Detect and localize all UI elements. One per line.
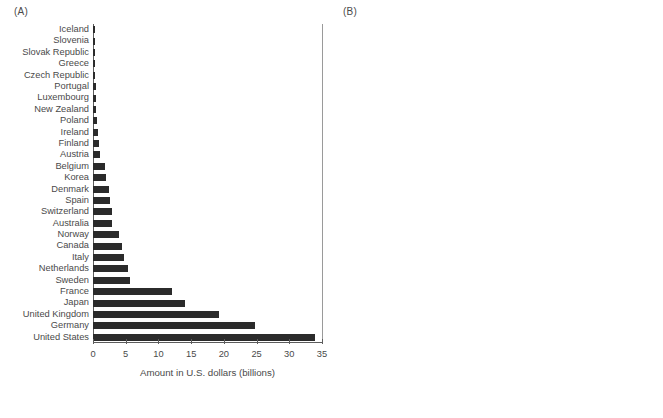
panel-a-tag: (A) [14, 6, 28, 17]
bar-row: United Kingdom [93, 309, 322, 320]
bar-category-label: Korea [64, 173, 89, 182]
bar [93, 197, 110, 204]
x-ticklabel: 15 [186, 349, 196, 359]
x-ticklabel: 20 [219, 349, 229, 359]
panel-b: (B) Slovak RepublicGreecePolandCzech Rep… [331, 0, 663, 418]
bar-row: Netherlands [93, 263, 322, 274]
x-tick [158, 339, 159, 344]
bar-category-label: France [60, 287, 89, 296]
bar [93, 26, 95, 33]
x-ticklabel: 35 [317, 349, 327, 359]
bar-category-label: Czech Republic [24, 71, 89, 80]
bar-row: Czech Republic [93, 70, 322, 81]
bar-row: Norway [93, 229, 322, 240]
bar-category-label: Belgium [55, 162, 89, 171]
bar-category-label: Portugal [54, 82, 89, 91]
bar-row: Denmark [93, 183, 322, 194]
bar [93, 208, 112, 215]
bar-category-label: Italy [72, 253, 89, 262]
panel-a-plot-area: IcelandSloveniaSlovak RepublicGreeceCzec… [93, 24, 322, 343]
bar-row: Spain [93, 195, 322, 206]
x-tick [322, 339, 323, 344]
bar-row: Portugal [93, 81, 322, 92]
bar-category-label: Slovenia [53, 36, 89, 45]
panel-a-x-ticks [93, 339, 322, 344]
bar-row: Belgium [93, 161, 322, 172]
bar-row: Slovenia [93, 35, 322, 46]
bar-row: Canada [93, 240, 322, 251]
bar-row: Greece [93, 58, 322, 69]
x-tick [93, 339, 94, 344]
bar [93, 174, 106, 181]
bar [93, 243, 122, 250]
x-tick [289, 339, 290, 344]
bar [93, 322, 255, 329]
x-tick [191, 339, 192, 344]
bar [93, 277, 130, 284]
bar-category-label: Finland [59, 139, 90, 148]
bar-row: Italy [93, 252, 322, 263]
bar [93, 254, 124, 261]
bar-category-label: Greece [59, 59, 90, 68]
bar-category-label: Switzerland [41, 207, 89, 216]
bar-category-label: Poland [60, 116, 89, 125]
x-tick [126, 339, 127, 344]
bar-row: Korea [93, 172, 322, 183]
x-ticklabel: 0 [90, 349, 95, 359]
bar-category-label: Canada [56, 241, 89, 250]
bar-row: Switzerland [93, 206, 322, 217]
bar-category-label: Denmark [51, 185, 89, 194]
bar-category-label: Austria [60, 150, 89, 159]
bar-category-label: Ireland [61, 128, 89, 137]
bar [93, 117, 97, 124]
bar-category-label: Netherlands [39, 264, 89, 273]
x-ticklabel: 30 [284, 349, 294, 359]
bar-category-label: United Kingdom [23, 310, 89, 319]
bar [93, 60, 95, 67]
panel-a-x-axis-title: Amount in U.S. dollars (billions) [93, 367, 322, 378]
bar [93, 106, 96, 113]
x-ticklabel: 10 [153, 349, 163, 359]
panel-a-x-ticklabels: 05101520253035 [93, 349, 322, 361]
bar [93, 231, 119, 238]
bar-row: Australia [93, 218, 322, 229]
bar [93, 38, 95, 45]
x-tick [257, 339, 258, 344]
bar [93, 300, 185, 307]
bar-category-label: United States [33, 333, 89, 342]
panel-b-tag: (B) [343, 6, 357, 17]
x-ticklabel: 5 [123, 349, 128, 359]
bar-row: Slovak Republic [93, 47, 322, 58]
bar [93, 288, 172, 295]
bar-row: France [93, 286, 322, 297]
bar-category-label: Iceland [59, 25, 89, 34]
bar [93, 151, 100, 158]
bar [93, 220, 112, 227]
figure-container: (A) IcelandSloveniaSlovak RepublicGreece… [0, 0, 663, 418]
panel-a: (A) IcelandSloveniaSlovak RepublicGreece… [0, 0, 331, 418]
bar [93, 49, 95, 56]
bar-category-label: Japan [64, 298, 89, 307]
bar [93, 265, 128, 272]
bar-row: Poland [93, 115, 322, 126]
bar-category-label: Luxembourg [37, 93, 89, 102]
bar-row: Japan [93, 297, 322, 308]
bar-row: Sweden [93, 275, 322, 286]
bar [93, 163, 105, 170]
bar-category-label: New Zealand [34, 105, 89, 114]
bar-category-label: Norway [57, 230, 89, 239]
bar-row: Iceland [93, 24, 322, 35]
panel-a-right-spine [322, 24, 323, 343]
bar-category-label: Australia [53, 219, 89, 228]
x-ticklabel: 25 [251, 349, 261, 359]
panel-a-bars: IcelandSloveniaSlovak RepublicGreeceCzec… [93, 24, 322, 343]
bar [93, 83, 96, 90]
bar-row: Ireland [93, 127, 322, 138]
bar [93, 311, 219, 318]
bar-category-label: Germany [51, 321, 89, 330]
bar-category-label: Slovak Republic [22, 48, 89, 57]
bar [93, 72, 95, 79]
bar [93, 140, 99, 147]
bar [93, 95, 96, 102]
bar-row: Germany [93, 320, 322, 331]
